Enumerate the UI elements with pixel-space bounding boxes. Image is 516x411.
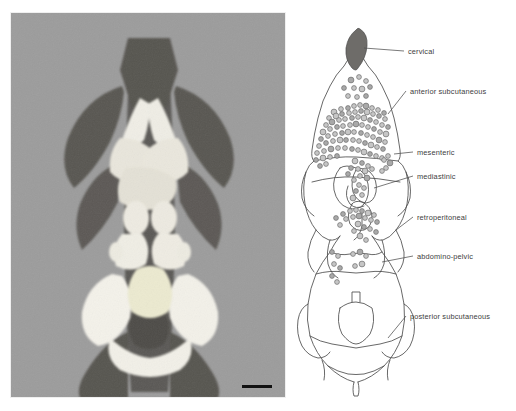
specimen-photograph-panel [10, 12, 286, 398]
adipose-marker [315, 151, 320, 156]
adipose-marker [346, 94, 351, 99]
adipose-marker [352, 130, 357, 135]
leader-retroperitoneal [396, 217, 413, 230]
leader-mediastinic [374, 176, 413, 188]
adipose-marker [357, 233, 363, 239]
adipose-marker [352, 86, 357, 91]
adipose-marker [375, 220, 380, 225]
adipose-marker [364, 238, 369, 243]
adipose-marker [346, 106, 351, 111]
leader-anterior-subcutaneous [388, 91, 406, 114]
adipose-marker [356, 115, 361, 120]
adipose-marker [355, 221, 361, 227]
adipose-marker [330, 250, 335, 255]
adipose-marker [360, 123, 365, 128]
adipose-marker [368, 227, 373, 232]
adipose-marker [324, 123, 329, 128]
adipose-marker [320, 155, 326, 161]
adipose-marker [383, 140, 388, 145]
depot-label-mediastinic: mediastinic [417, 172, 456, 181]
adipose-marker [336, 254, 341, 259]
specimen-photograph-image [10, 12, 286, 398]
adipose-marker [337, 137, 343, 143]
adipose-marker [344, 138, 349, 143]
adipose-marker [366, 125, 371, 130]
depot-label-posterior-subcutaneous: posterior subcutaneous [410, 312, 490, 321]
adipose-marker [347, 111, 352, 116]
adipose-marker [383, 117, 388, 122]
adipose-marker [362, 186, 367, 191]
adipose-marker [372, 127, 377, 132]
adipose-marker [364, 109, 370, 115]
depot-label-anterior-subcutaneous: anterior subcutaneous [410, 87, 486, 96]
adipose-marker [358, 103, 363, 108]
adipose-marker [336, 146, 341, 151]
adipose-marker [320, 129, 326, 135]
adipose-marker [362, 168, 368, 174]
adipose-marker [374, 120, 379, 125]
adipose-marker [324, 162, 329, 167]
adipose-marker [356, 213, 362, 219]
adipose-marker [317, 144, 322, 149]
adipose-marker [363, 141, 368, 146]
adipose-marker [357, 183, 362, 188]
adipose-marker [364, 254, 369, 259]
adipose-marker [362, 225, 367, 230]
adipose-marker [354, 189, 359, 194]
adipose-marker [351, 215, 356, 220]
adipose-marker [329, 119, 335, 125]
adipose-marker [354, 208, 359, 213]
adipose-marker [345, 129, 351, 135]
adipose-marker [359, 86, 365, 92]
adipose-marker [344, 217, 349, 222]
adipose-marker [363, 103, 369, 109]
adipose-marker [328, 146, 334, 152]
adipose-marker [341, 124, 346, 129]
adipose-marker [348, 123, 353, 128]
depot-label-retroperitoneal: retroperitoneal [417, 213, 467, 222]
adipose-marker [352, 104, 357, 109]
leader-lines [364, 48, 413, 338]
adipose-marker [368, 152, 373, 157]
adipose-marker [382, 158, 387, 163]
adipose-marker [371, 135, 376, 140]
adipose-marker [346, 172, 351, 177]
adipose-marker [355, 95, 360, 100]
adipose-marker [335, 154, 340, 159]
scale-bar [242, 385, 272, 388]
depot-labels: cervicalanterior subcutaneousmesentericm… [408, 47, 490, 321]
adipose-marker [353, 264, 358, 269]
adipose-marker [352, 229, 357, 234]
adipose-marker [361, 115, 367, 121]
adipose-marker [380, 123, 385, 128]
adipose-marker [335, 280, 340, 285]
adipose-marker [350, 116, 355, 121]
adipose-marker [351, 252, 356, 257]
adipose-marker [356, 167, 361, 172]
adipose-marker [377, 114, 382, 119]
adipose-marker [352, 178, 357, 183]
adipose-marker [365, 210, 371, 216]
adipose-marker [364, 175, 370, 181]
adipose-marker [338, 266, 343, 271]
adipose-marker [382, 111, 387, 116]
adipose-marker [360, 161, 365, 166]
adipose-marker [368, 142, 374, 148]
adipose-marker [353, 110, 358, 115]
depot-label-mesenteric: mesenteric [417, 148, 455, 157]
adipose-marker [356, 148, 361, 153]
adipose-marker [351, 138, 356, 143]
adipose-marker [322, 149, 327, 154]
figure-root: cervicalanterior subcutaneousmesentericm… [0, 0, 516, 411]
adipose-marker [376, 108, 381, 113]
adipose-marker [359, 131, 364, 136]
adipose-marker [332, 262, 337, 267]
adipose-marker [364, 79, 369, 84]
leader-posterior-subcutaneous [388, 316, 406, 338]
leader-cervical [364, 48, 404, 51]
adipose-marker [353, 121, 359, 127]
schematic-diagram-panel: cervicalanterior subcutaneousmesentericm… [296, 8, 516, 404]
adipose-marker [360, 209, 365, 214]
adipose-marker [380, 169, 385, 174]
adipose-marker [328, 127, 333, 132]
